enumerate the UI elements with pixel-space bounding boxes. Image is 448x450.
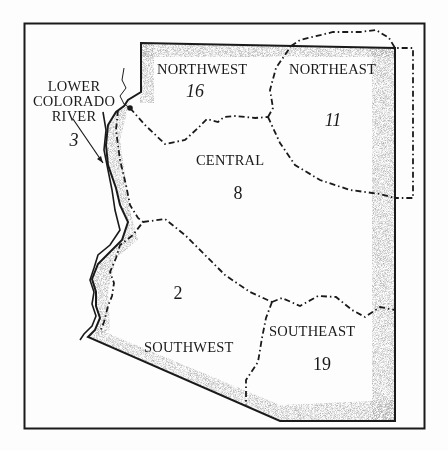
region-value-central: 8 [234, 183, 243, 203]
region-value-northwest: 16 [186, 81, 204, 101]
region-name-northeast: NORTHEAST [289, 61, 376, 77]
region-value-northeast: 11 [325, 110, 342, 130]
region-value-southwest: 2 [174, 283, 183, 303]
river-leader-arrowhead [97, 156, 103, 163]
region-name-northwest: NORTHWEST [157, 61, 247, 77]
junction-dot [127, 105, 133, 111]
region-name-central: CENTRAL [196, 152, 264, 168]
river-label-line-2: COLORADO [33, 93, 115, 109]
river-label-line-3: RIVER [52, 108, 97, 124]
river-label-line-1: LOWER [48, 78, 101, 94]
region-value-river: 3 [69, 130, 79, 150]
region-name-southwest: SOUTHWEST [144, 339, 234, 355]
region-value-southeast: 19 [313, 354, 331, 374]
region-name-southeast: SOUTHEAST [269, 323, 355, 339]
arizona-region-map: NORTHWEST 16 NORTHEAST 11 CENTRAL 8 2 SO… [0, 0, 448, 450]
